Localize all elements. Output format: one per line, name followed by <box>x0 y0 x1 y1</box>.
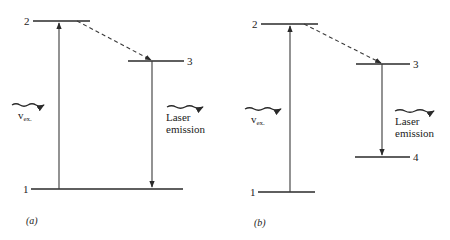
level-3-label: 3 <box>413 58 419 70</box>
nonradiative-dashed-arrow <box>77 21 151 60</box>
level-3-label: 3 <box>187 55 193 67</box>
level-4-label: 4 <box>413 151 419 163</box>
panel-a: 2 3 1 vex. Laser emission (a) <box>12 15 206 227</box>
laser-label-line1: Laser <box>166 111 191 123</box>
excitation-wavy-arrow-icon <box>12 104 44 107</box>
level-1-label: 1 <box>23 183 29 195</box>
level-1-label: 1 <box>250 186 256 198</box>
panel-a-caption: (a) <box>26 215 38 227</box>
level-2-label: 2 <box>252 18 258 30</box>
laser-label-line2: emission <box>166 123 206 135</box>
laser-label-line1: Laser <box>395 115 420 127</box>
energy-level-diagram: 2 3 1 vex. Laser emission (a) 2 3 4 <box>0 0 450 240</box>
panel-b-caption: (b) <box>254 217 266 229</box>
excitation-label: vex. <box>18 109 32 123</box>
laser-output-wavy-arrow-icon <box>167 106 203 109</box>
nonradiative-dashed-arrow <box>304 24 381 63</box>
laser-output-wavy-arrow-icon <box>395 110 434 113</box>
excitation-label: vex. <box>251 113 265 127</box>
laser-label-line2: emission <box>395 127 435 139</box>
panel-b: 2 3 4 1 vex. Laser emission (b) <box>245 18 435 229</box>
excitation-wavy-arrow-icon <box>245 108 281 111</box>
level-2-label: 2 <box>24 15 30 27</box>
